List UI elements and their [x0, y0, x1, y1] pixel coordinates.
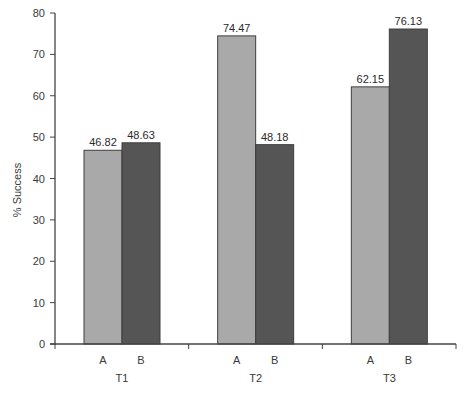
y-tick-label: 20 — [33, 255, 45, 267]
y-tick-label: 80 — [33, 7, 45, 19]
y-tick-label: 0 — [39, 338, 45, 350]
category-label: T3 — [383, 372, 396, 384]
bar-t3-b — [389, 29, 427, 344]
value-label: 62.15 — [357, 73, 385, 85]
bar-group-t3: 62.15A76.13BT3 — [351, 15, 427, 384]
x-axis — [50, 344, 456, 349]
subcategory-label: A — [367, 354, 375, 366]
bar-t2-b — [256, 145, 294, 344]
y-tick-label: 10 — [33, 297, 45, 309]
subcategory-label: A — [99, 354, 107, 366]
y-tick-label: 30 — [33, 214, 45, 226]
y-tick-label: 50 — [33, 131, 45, 143]
bar-t1-a — [84, 150, 122, 344]
value-label: 74.47 — [223, 22, 251, 34]
value-label: 76.13 — [395, 15, 423, 27]
bar-chart: 01020304050607080 46.82A48.63BT174.47A48… — [0, 0, 467, 395]
bars: 46.82A48.63BT174.47A48.18BT262.15A76.13B… — [84, 15, 427, 384]
subcategory-label: B — [271, 354, 278, 366]
value-label: 48.18 — [261, 131, 289, 143]
bar-group-t1: 46.82A48.63BT1 — [84, 129, 160, 384]
bar-t3-a — [351, 87, 389, 344]
category-label: T1 — [116, 372, 129, 384]
y-axis: 01020304050607080 — [33, 7, 55, 350]
bar-t1-b — [122, 143, 160, 344]
y-tick-label: 60 — [33, 90, 45, 102]
subcategory-label: A — [233, 354, 241, 366]
y-tick-label: 40 — [33, 173, 45, 185]
value-label: 48.63 — [127, 129, 155, 141]
category-label: T2 — [249, 372, 262, 384]
subcategory-label: B — [405, 354, 412, 366]
value-label: 46.82 — [89, 136, 117, 148]
bar-t2-a — [218, 36, 256, 344]
y-axis-title: % Success — [11, 162, 23, 217]
y-tick-label: 70 — [33, 48, 45, 60]
bar-group-t2: 74.47A48.18BT2 — [218, 22, 294, 384]
subcategory-label: B — [137, 354, 144, 366]
